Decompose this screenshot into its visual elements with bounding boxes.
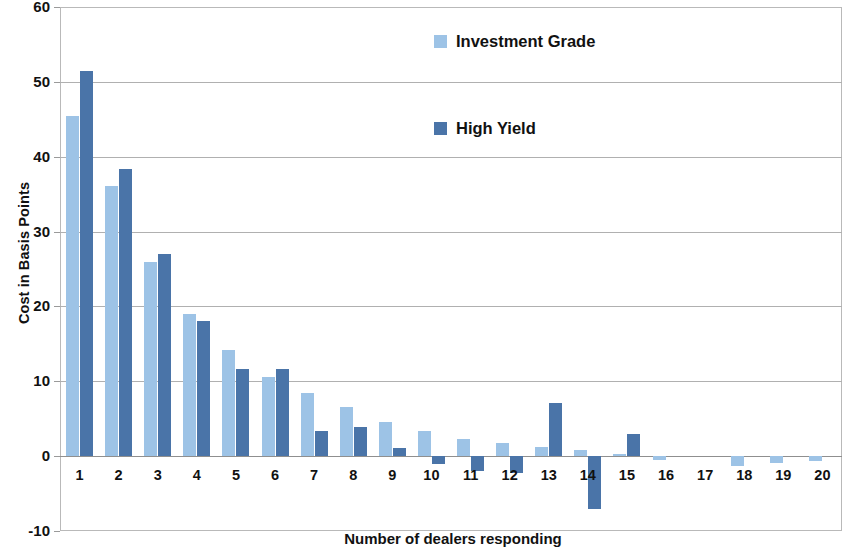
- bar-investment-grade[interactable]: [653, 456, 666, 460]
- bar-high-yield[interactable]: [80, 71, 93, 457]
- bar-investment-grade[interactable]: [340, 407, 353, 456]
- bar-investment-grade[interactable]: [222, 350, 235, 456]
- bar-group: [686, 7, 725, 531]
- x-axis-tick-label: 7: [294, 468, 334, 483]
- bar-high-yield[interactable]: [549, 403, 562, 456]
- bar-group: [60, 7, 99, 531]
- bar-investment-grade[interactable]: [535, 447, 548, 456]
- y-axis-tick-label: 50: [2, 74, 50, 89]
- bar-investment-grade[interactable]: [144, 262, 157, 456]
- bar-group: [138, 7, 177, 531]
- bar-investment-grade[interactable]: [731, 456, 744, 466]
- bar-chart: Cost in Basis Points 6050403020100-10 12…: [0, 0, 846, 556]
- bar-investment-grade[interactable]: [301, 393, 314, 457]
- bar-group: [764, 7, 803, 531]
- x-axis-tick-label: 3: [138, 468, 178, 483]
- x-axis-tick-label: 13: [529, 468, 569, 483]
- bar-high-yield[interactable]: [432, 456, 445, 463]
- bar-investment-grade[interactable]: [418, 431, 431, 456]
- bar-group: [725, 7, 764, 531]
- x-axis-tick-label: 16: [646, 468, 686, 483]
- x-axis-tick-label: 5: [216, 468, 256, 483]
- legend-item-high-yield[interactable]: High Yield: [434, 119, 536, 138]
- bar-investment-grade[interactable]: [262, 377, 275, 456]
- bar-high-yield[interactable]: [276, 369, 289, 457]
- y-axis-tick-label: 30: [2, 224, 50, 239]
- x-axis-tick-label: 17: [685, 468, 725, 483]
- bar-investment-grade[interactable]: [457, 439, 470, 456]
- y-axis-tick-label: -10: [2, 523, 50, 538]
- y-axis-tick-label: 0: [2, 448, 50, 463]
- bar-high-yield[interactable]: [627, 434, 640, 456]
- y-axis-tick-label: 20: [2, 298, 50, 313]
- bar-group: [412, 7, 451, 531]
- bar-investment-grade[interactable]: [379, 422, 392, 456]
- x-axis-tick-label: 2: [99, 468, 139, 483]
- bar-investment-grade[interactable]: [183, 314, 196, 456]
- legend-label: Investment Grade: [456, 32, 595, 51]
- plot-area: [60, 7, 842, 531]
- bar-group: [647, 7, 686, 531]
- x-axis-tick-label: 18: [724, 468, 764, 483]
- bar-group: [99, 7, 138, 531]
- y-axis-tick-label: 10: [2, 373, 50, 388]
- bar-group: [607, 7, 646, 531]
- bar-investment-grade[interactable]: [496, 443, 509, 456]
- x-axis-tick-label: 1: [60, 468, 100, 483]
- x-axis-tick-label: 19: [763, 468, 803, 483]
- bar-high-yield[interactable]: [354, 427, 367, 456]
- x-axis-tick-label: 11: [451, 468, 491, 483]
- bar-group: [256, 7, 295, 531]
- x-axis-tick-label: 8: [333, 468, 373, 483]
- bar-investment-grade[interactable]: [66, 116, 79, 456]
- x-axis-tick-label: 4: [177, 468, 217, 483]
- bar-group: [177, 7, 216, 531]
- bar-high-yield[interactable]: [119, 169, 132, 456]
- bar-group: [803, 7, 842, 531]
- bar-group: [216, 7, 255, 531]
- x-axis-tick-label: 9: [372, 468, 412, 483]
- x-axis-tick-label: 12: [490, 468, 530, 483]
- bar-investment-grade[interactable]: [770, 456, 783, 463]
- bar-group: [334, 7, 373, 531]
- y-axis-tick-label: 40: [2, 149, 50, 164]
- bar-group: [373, 7, 412, 531]
- x-axis-tick-label: 15: [607, 468, 647, 483]
- bar-group: [295, 7, 334, 531]
- legend-swatch-icon: [434, 122, 447, 135]
- bar-investment-grade[interactable]: [105, 186, 118, 456]
- bar-group: [529, 7, 568, 531]
- bar-high-yield[interactable]: [197, 321, 210, 456]
- bar-investment-grade[interactable]: [613, 454, 626, 456]
- bar-high-yield[interactable]: [315, 431, 328, 456]
- bar-investment-grade[interactable]: [809, 456, 822, 460]
- bar-group: [568, 7, 607, 531]
- x-axis-tick-label: 6: [255, 468, 295, 483]
- legend-label: High Yield: [456, 119, 536, 138]
- bar-investment-grade[interactable]: [574, 450, 587, 456]
- y-axis-tick-label: 60: [2, 0, 50, 14]
- legend-swatch-icon: [434, 35, 447, 48]
- x-axis-tick-label: 20: [802, 468, 842, 483]
- bar-high-yield[interactable]: [158, 254, 171, 456]
- bar-group: [451, 7, 490, 531]
- bar-high-yield[interactable]: [393, 448, 406, 456]
- bar-high-yield[interactable]: [236, 369, 249, 457]
- x-axis-title: Number of dealers responding: [60, 530, 846, 547]
- x-axis-tick-label: 10: [411, 468, 451, 483]
- x-axis-tick-label: 14: [568, 468, 608, 483]
- bar-group: [490, 7, 529, 531]
- legend-item-investment-grade[interactable]: Investment Grade: [434, 32, 595, 51]
